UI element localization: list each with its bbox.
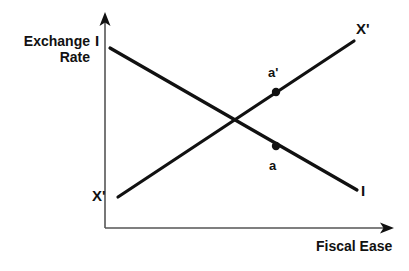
point-label-a: a (269, 159, 276, 174)
point-label-a-prime: a' (268, 66, 278, 81)
curve-x-prime-line (118, 41, 354, 197)
curve-label-x-prime-top: X' (356, 21, 370, 38)
point-a-marker (272, 142, 280, 150)
y-axis-title: ExchangeRate (6, 34, 90, 65)
point-a-prime-marker (272, 88, 280, 96)
economics-diagram: ExchangeRate Fiscal Ease I I X' X' a' a (0, 0, 409, 271)
y-axis-title-line1: Exchange (24, 33, 90, 49)
x-axis-title: Fiscal Ease (316, 239, 392, 255)
curve-label-i-bottom: I (361, 183, 365, 200)
curve-label-i-top: I (95, 33, 99, 50)
y-axis-title-line2: Rate (60, 49, 90, 65)
curve-label-x-prime-bottom: X' (92, 188, 106, 205)
